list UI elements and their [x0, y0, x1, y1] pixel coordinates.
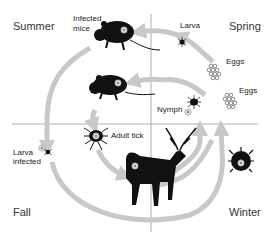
label-eggs-1: Eggs	[226, 57, 244, 66]
label-larva-infected-1: Larva	[13, 148, 33, 157]
label-nymph: Nymph	[157, 105, 182, 114]
label-eggs-2: Eggs	[239, 86, 257, 95]
season-winter: Winter	[229, 206, 261, 218]
label-infected: Infected	[73, 14, 101, 23]
engorged-tick-icon	[228, 147, 254, 172]
lifecycle-diagram	[0, 0, 271, 237]
eggs-icon	[207, 64, 221, 80]
mouse-icon	[94, 21, 160, 50]
eggs-icon	[223, 93, 237, 109]
nymph-tick-icon	[185, 95, 201, 115]
season-summer: Summer	[13, 20, 55, 32]
season-spring: Spring	[229, 20, 261, 32]
label-mice: mice	[73, 24, 90, 33]
season-fall: Fall	[13, 206, 31, 218]
label-larva-infected-2: infected	[13, 157, 41, 166]
adult-tick-icon	[84, 128, 108, 150]
label-adult-tick: Adult tick	[111, 131, 143, 140]
label-larva: Larva	[180, 21, 200, 30]
